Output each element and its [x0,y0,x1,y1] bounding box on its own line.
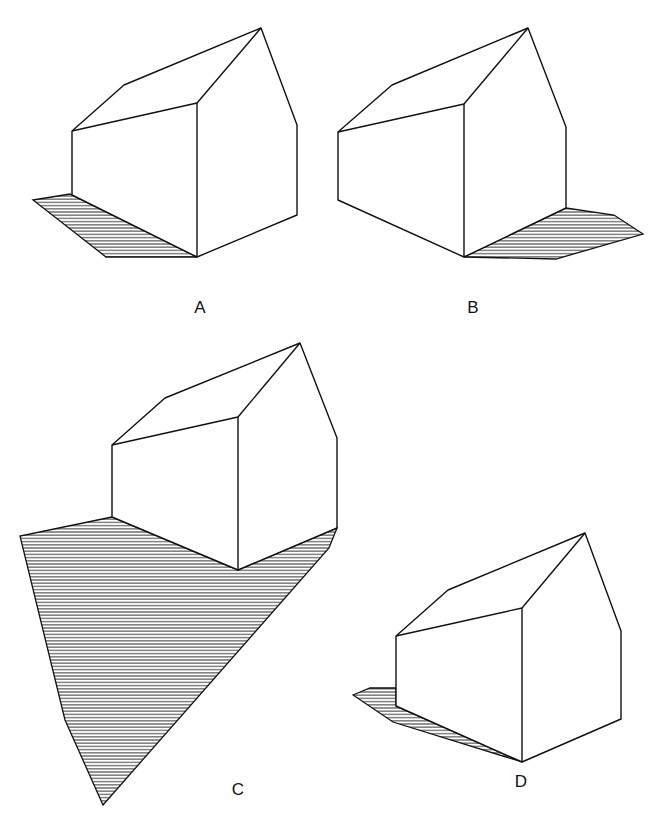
panel-label-a: A [194,298,205,318]
house-panel-d [353,533,621,762]
panel-label-c: C [232,780,244,800]
panel-label-b: B [467,298,478,318]
house-panel-a [33,28,297,257]
house-outline [338,28,566,257]
panel-label-d: D [515,772,527,792]
house-panel-c [20,343,337,805]
cast-shadow [20,517,337,805]
house-shadow-diagram [0,0,655,829]
house-panel-b [338,28,643,259]
